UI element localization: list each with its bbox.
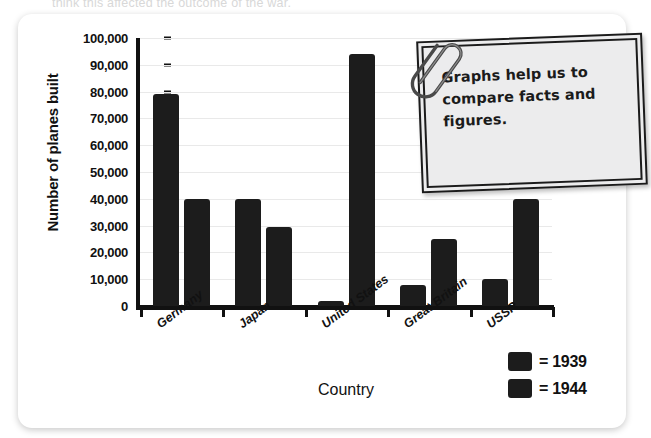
x-tick-mark	[552, 307, 555, 317]
chart-legend: = 1939 = 1944	[508, 352, 620, 406]
bar-group	[222, 38, 304, 306]
cropped-body-text: think this affected the outcome of the w…	[52, 0, 472, 9]
legend-swatch-1944	[508, 379, 532, 398]
y-axis-tick-labels: 010,00020,00030,00040,00050,00060,00070,…	[52, 38, 128, 306]
y-tick-label: 60,000	[90, 138, 128, 153]
bar-1939	[153, 94, 179, 306]
figure-card: Number of planes built 010,00020,00030,0…	[18, 14, 626, 428]
bar-1944	[266, 227, 292, 306]
y-tick-label: 20,000	[90, 245, 128, 260]
bar-1944	[349, 54, 375, 306]
y-tick-label: 80,000	[90, 84, 128, 99]
legend-swatch-1939	[508, 352, 532, 371]
legend-item-1944: = 1944	[508, 379, 620, 398]
note-text: Graphs help us to compare facts and figu…	[441, 59, 629, 132]
y-tick-label: 0	[121, 299, 128, 314]
x-axis-category-labels: GermanyJapanUnited StatesGreat BritainUS…	[140, 314, 552, 384]
bar-1939	[482, 279, 508, 306]
y-tick-label: 90,000	[90, 57, 128, 72]
legend-label-1939: = 1939	[539, 353, 587, 371]
y-tick-label: 10,000	[90, 272, 128, 287]
y-tick-label: 40,000	[90, 191, 128, 206]
chart-container: Number of planes built 010,00020,00030,0…	[18, 14, 626, 428]
y-tick-label: 50,000	[90, 165, 128, 180]
bar-1944	[513, 199, 539, 306]
callout-note: Graphs help us to compare facts and figu…	[416, 33, 648, 194]
screenshot-root: think this affected the outcome of the w…	[0, 0, 651, 438]
y-tick-label: 70,000	[90, 111, 128, 126]
bar-1939	[235, 199, 261, 306]
legend-label-1944: = 1944	[539, 380, 587, 398]
bar-group	[305, 38, 387, 306]
y-tick-label: 100,000	[83, 31, 128, 46]
legend-item-1939: = 1939	[508, 352, 620, 371]
bar-group	[140, 38, 222, 306]
y-tick-label: 30,000	[90, 218, 128, 233]
x-axis-title: Country	[140, 381, 552, 399]
